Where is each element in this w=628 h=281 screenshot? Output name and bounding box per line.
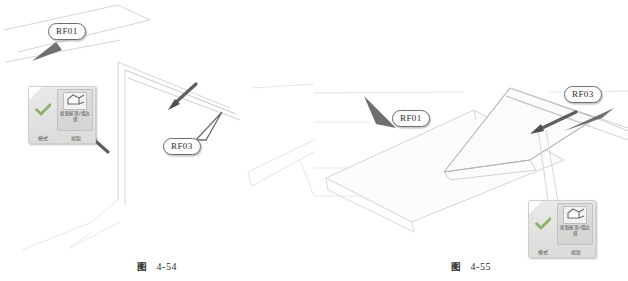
revit-ribbon-panel[interactable]: 拾取屋顶/墙边缘 模式 拾取 bbox=[528, 200, 596, 258]
figure-4-54-caption: 图4-54 bbox=[0, 259, 314, 273]
callout-rf01: RF01 bbox=[392, 110, 430, 127]
pick-roof-wall-edge-icon bbox=[563, 206, 587, 224]
model-line bbox=[92, 200, 118, 222]
model-line bbox=[70, 232, 92, 248]
caption-number: 4-54 bbox=[157, 261, 177, 272]
pick-roof-wall-edge-label: 拾取屋顶/墙边缘 bbox=[59, 111, 92, 122]
callout-rf03-tail bbox=[196, 112, 222, 140]
model-line bbox=[252, 84, 314, 88]
callout-rf01-label: RF01 bbox=[400, 113, 422, 123]
callout-rf03: RF03 bbox=[163, 138, 201, 155]
model-line bbox=[412, 222, 414, 232]
figure-4-55: RF01 RF03 bbox=[314, 0, 628, 281]
callout-rf01-label: RF01 bbox=[56, 26, 78, 36]
callout-rf01-tail bbox=[364, 96, 396, 128]
pick-roof-wall-edge-label: 拾取屋顶/墙边缘 bbox=[559, 225, 592, 236]
pick-group-label: 拾取 bbox=[57, 134, 95, 141]
callout-rf03: RF03 bbox=[564, 86, 602, 103]
finish-check-icon[interactable] bbox=[535, 217, 552, 230]
callout-rf01: RF01 bbox=[48, 23, 86, 40]
model-line bbox=[326, 178, 328, 190]
model-line bbox=[118, 5, 150, 20]
pick-roof-wall-edge-icon bbox=[63, 92, 87, 110]
revit-ribbon-panel[interactable]: 拾取屋顶/墙边缘 模式 拾取 bbox=[28, 86, 96, 144]
caption-word: 图 bbox=[451, 261, 462, 272]
figure-4-54: RF01 RF03 bbox=[0, 0, 314, 281]
model-line bbox=[70, 222, 120, 248]
mode-group-label: 模式 bbox=[529, 248, 557, 255]
panel-body: 拾取屋顶/墙边缘 bbox=[529, 201, 595, 246]
model-line bbox=[300, 160, 314, 196]
finish-check-icon[interactable] bbox=[35, 103, 52, 116]
caption-word: 图 bbox=[137, 261, 148, 272]
model-line bbox=[314, 92, 464, 93]
model-line bbox=[128, 78, 240, 120]
mode-group-label: 模式 bbox=[29, 134, 57, 141]
model-line bbox=[248, 172, 252, 186]
caption-number: 4-55 bbox=[471, 261, 491, 272]
model-line bbox=[252, 152, 314, 186]
model-line bbox=[596, 118, 628, 131]
pick-roof-wall-edge-button[interactable]: 拾取屋顶/墙边缘 bbox=[557, 203, 593, 245]
callout-rf03-label: RF03 bbox=[572, 89, 594, 99]
mode-group[interactable] bbox=[529, 201, 557, 246]
panel-footer: 模式 拾取 bbox=[529, 246, 595, 257]
model-line bbox=[22, 222, 92, 250]
pick-group-label: 拾取 bbox=[557, 248, 595, 255]
pick-roof-wall-edge-button[interactable]: 拾取屋顶/墙边缘 bbox=[57, 89, 93, 131]
panel-body: 拾取屋顶/墙边缘 bbox=[29, 87, 95, 132]
model-line bbox=[248, 140, 314, 172]
panel-footer: 模式 拾取 bbox=[29, 132, 95, 143]
model-line bbox=[125, 70, 236, 114]
mode-group[interactable] bbox=[29, 87, 57, 132]
figure-4-55-caption: 图4-55 bbox=[314, 259, 628, 273]
callout-rf03-label: RF03 bbox=[171, 141, 193, 151]
